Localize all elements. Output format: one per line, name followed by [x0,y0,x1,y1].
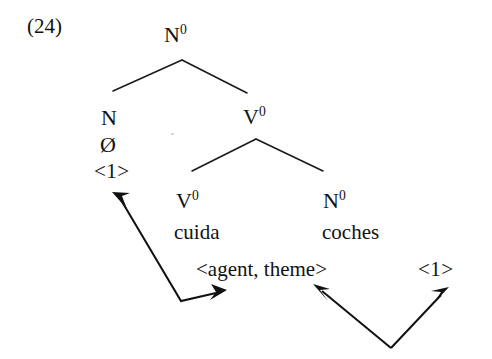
figure-canvas: (24) N0 N Ø <1> V0 V0 cuida N0 c [0,0,492,359]
branch-v-left [192,139,256,171]
arrow-theme-index-line-left [322,291,391,348]
tree-node-left-n: N [101,107,117,129]
arrow-theme-head-upleft [313,284,330,301]
tree-node-object-noun: N0 [323,190,346,212]
arrow-theme-index-line-right [391,295,441,348]
null-morpheme: Ø [100,134,116,156]
tree-node-verb: V0 [176,190,199,212]
arrow-index-agent-head-upleft [112,192,130,209]
tree-node-v-phrase-label: V [243,104,259,129]
tree-node-verb-label: V [176,188,192,213]
arrow-index-agent-head-right [210,284,227,300]
tree-node-v-phrase: V0 [243,106,266,128]
scan-speck [171,133,174,135]
word-verb: cuida [174,222,219,243]
tree-node-root: N0 [164,24,187,46]
tree-node-root-superscript: 0 [180,22,187,37]
right-argument-index: <1> [418,259,454,280]
arrow-index-head-upright [431,287,449,303]
word-object-noun: coches [322,222,379,243]
tree-node-verb-superscript: 0 [192,188,199,203]
tree-node-object-noun-label: N [323,188,339,213]
left-argument-index: <1> [94,161,130,182]
tree-node-v-phrase-superscript: 0 [259,104,266,119]
tree-node-root-label: N [164,22,180,47]
branch-root-right [182,60,247,93]
branch-root-left [113,60,182,91]
branch-v-right [256,139,323,171]
arrow-index-agent-line [121,200,216,301]
tree-lines-and-arrows [0,0,492,359]
example-number: (24) [27,16,62,37]
tree-node-object-noun-superscript: 0 [339,188,346,203]
theta-grid: <agent, theme> [196,259,327,280]
